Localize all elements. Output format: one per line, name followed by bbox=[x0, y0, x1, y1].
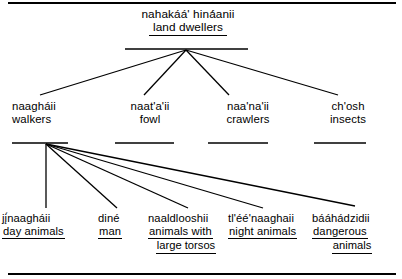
edges-root-to-level2 bbox=[40, 50, 338, 95]
edge-walkers-naaldlooshii bbox=[46, 144, 188, 208]
node-chosh-gloss: insects bbox=[300, 113, 396, 126]
node-jinaaghaii-gloss: day animals bbox=[2, 225, 96, 240]
edge-walkers-baahadzidii bbox=[46, 144, 355, 206]
node-naatai-term: naat'a'ii bbox=[104, 100, 196, 113]
node-jinaaghaii-day-animals: jį́naagháii day animals bbox=[2, 212, 96, 239]
node-chosh-insects: ch'osh insects bbox=[300, 100, 396, 126]
node-naaldlooshii-term: naaldlooshii bbox=[148, 212, 228, 225]
node-naaldlooshii-gloss: animals with bbox=[148, 225, 228, 240]
node-dine-man: diné man bbox=[98, 212, 146, 239]
node-tleenaaghaii-term: tl'éé'naaghaii bbox=[228, 212, 310, 225]
node-dine-term: diné bbox=[98, 212, 146, 225]
taxonomy-diagram: nahakáá' hiná́anii land dwellers naaghái… bbox=[0, 0, 402, 279]
edge-walkers-tleenaaghaii bbox=[46, 144, 263, 208]
node-naanai-term: naa'na'ii bbox=[198, 100, 298, 113]
edge-root-naaghaii bbox=[40, 50, 186, 95]
node-naaghaii-term: naagháii bbox=[12, 100, 104, 113]
node-baahadzidii-dangerous-animals: bááhádzidii dangerous animals bbox=[312, 212, 398, 254]
node-dine-gloss: man bbox=[98, 225, 146, 240]
node-chosh-term: ch'osh bbox=[300, 100, 396, 113]
node-naaghaii-walkers: naagháii walkers bbox=[4, 100, 104, 126]
node-naaldlooshii-gloss-line2: large torsos bbox=[148, 239, 228, 254]
node-naaldlooshii-large-torso-animals: naaldlooshii animals with large torsos bbox=[148, 212, 228, 254]
node-tleenaaghaii-night-animals: tl'éé'naaghaii night animals bbox=[228, 212, 310, 239]
edges-walkers-to-level3 bbox=[46, 144, 355, 208]
node-naaghaii-gloss: walkers bbox=[12, 113, 104, 126]
node-baahadzidii-gloss: dangerous bbox=[312, 225, 398, 240]
node-naanai-crawlers: naa'na'ii crawlers bbox=[198, 100, 298, 126]
node-tleenaaghaii-gloss: night animals bbox=[228, 225, 310, 240]
node-land-dwellers: nahakáá' hiná́anii land dwellers bbox=[88, 8, 288, 36]
node-root-gloss: land dwellers bbox=[88, 21, 288, 36]
node-baahadzidii-gloss-line2: animals bbox=[312, 239, 398, 254]
node-jinaaghaii-term: jį́naagháii bbox=[2, 212, 96, 225]
node-naatai-gloss: fowl bbox=[104, 113, 196, 126]
edge-root-chosh bbox=[186, 50, 338, 95]
node-baahadzidii-term: bááhádzidii bbox=[312, 212, 398, 225]
node-naanai-gloss: crawlers bbox=[198, 113, 298, 126]
node-naatai-fowl: naat'a'ii fowl bbox=[104, 100, 196, 126]
edge-walkers-dine bbox=[46, 144, 117, 208]
